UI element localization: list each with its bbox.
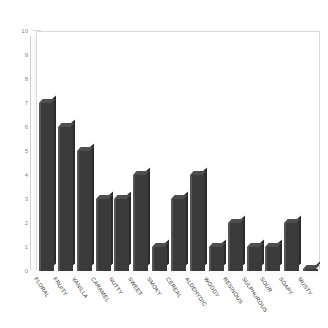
x-axis-category-label: SWEET (127, 276, 144, 297)
bar-front-face (96, 199, 111, 271)
y-axis-tick-label: 0 (25, 268, 28, 274)
bar-column (303, 269, 316, 271)
y-axis-tick-label: 9 (25, 52, 28, 58)
bar-column (114, 199, 127, 271)
bar-front-face (39, 103, 54, 271)
bar-front-face (133, 175, 148, 271)
bar-column (152, 247, 165, 271)
bar-column (58, 127, 71, 271)
y-axis-tick-label: 6 (25, 124, 28, 130)
x-axis-category-label: FRUITY (52, 276, 69, 297)
bar-column (209, 247, 222, 271)
x-axis-category-label: VANILLA (71, 276, 89, 299)
bar-column (39, 103, 52, 271)
bar-column (96, 199, 109, 271)
bar-column (171, 199, 184, 271)
bar-front-face (77, 151, 92, 271)
x-axis-category-label: SOAPY (278, 276, 294, 296)
y-axis-tick-label: 4 (25, 172, 28, 178)
x-axis-category-label: CARAMEL (90, 276, 111, 303)
x-axis-category-label: WOODY (203, 276, 221, 298)
bar-column (77, 151, 90, 271)
bar-front-face (303, 269, 318, 271)
bar-chart: 012345678910 FLORALFRUITYVANILLACARAMELN… (0, 0, 328, 328)
y-axis-tick-label: 3 (25, 196, 28, 202)
x-axis-category-label: MUSTY (297, 276, 313, 296)
bar-column (265, 247, 278, 271)
bars-area (37, 31, 320, 271)
y-axis-tick-label: 5 (25, 148, 28, 154)
bar-front-face (152, 247, 167, 271)
y-axis-tick-label: 10 (21, 28, 28, 34)
x-axis-category-label: NUTTY (108, 276, 124, 296)
x-axis-category-label: CEREAL (165, 276, 183, 299)
bar-front-face (171, 199, 186, 271)
bar-column (133, 175, 146, 271)
x-axis-category-label: FLORAL (33, 276, 51, 298)
x-axis-category-label: SMOKY (146, 276, 163, 297)
bar-front-face (247, 247, 262, 271)
bar-column (190, 175, 203, 271)
bar-front-face (114, 199, 129, 271)
bar-front-face (58, 127, 73, 271)
bar-front-face (228, 223, 243, 271)
y-axis: 012345678910 (0, 26, 34, 276)
x-axis-category-label: SOUR (259, 276, 273, 293)
y-axis-tick-label: 7 (25, 100, 28, 106)
bar-column (228, 223, 241, 271)
y-axis-tick-label: 8 (25, 76, 28, 82)
bar-front-face (284, 223, 299, 271)
bar-front-face (190, 175, 205, 271)
x-axis-category-label: RESINOUS (222, 276, 244, 305)
bar-front-face (209, 247, 224, 271)
bar-front-face (265, 247, 280, 271)
y-axis-tick-label: 2 (25, 220, 28, 226)
y-axis-tick-label: 1 (25, 244, 28, 250)
bar-column (247, 247, 260, 271)
x-axis-category-labels: FLORALFRUITYVANILLACARAMELNUTTYSWEETSMOK… (37, 276, 327, 328)
bar-column (284, 223, 297, 271)
